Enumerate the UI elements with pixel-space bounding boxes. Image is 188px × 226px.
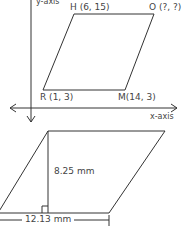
parallelogram-HOMR: [43, 14, 154, 90]
right-angle-icon: [42, 206, 48, 213]
vertex-label-M: M(14, 3): [118, 92, 156, 102]
x-axis-label: x-axis: [150, 112, 174, 121]
parallelogram-area-figure: [0, 131, 165, 226]
y-axis-label: y-axis: [36, 0, 60, 6]
base-label: 12.13 mm: [25, 214, 71, 224]
vertex-label-H: H (6, 15): [70, 2, 110, 12]
height-label: 8.25 mm: [54, 166, 94, 176]
vertex-label-R: R (1, 3): [40, 92, 73, 102]
vertex-label-O: O (?, ?): [149, 2, 181, 12]
